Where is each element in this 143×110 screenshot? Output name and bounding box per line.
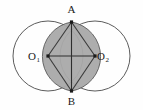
point-label-A: A (68, 3, 76, 15)
point-marker-B (70, 89, 73, 92)
point-label-O1: O1 (28, 50, 40, 64)
figure-canvas: A B O1 O2 (0, 0, 143, 110)
point-label-O2: O2 (97, 50, 109, 64)
point-marker-O1 (46, 54, 49, 57)
point-marker-A (70, 20, 73, 23)
geometry-figure: A B O1 O2 (0, 0, 143, 110)
point-label-B: B (68, 95, 75, 107)
